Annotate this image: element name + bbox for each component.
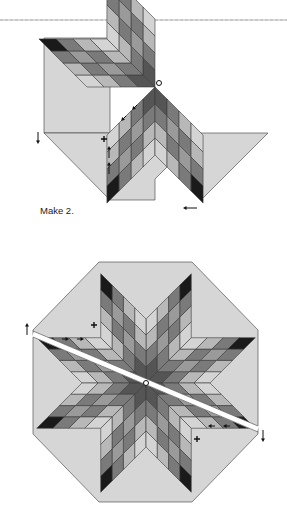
- circle-icon: [144, 381, 149, 386]
- half-lone-star-unit: [39, 0, 268, 203]
- make-quantity-caption: Make 2.: [40, 205, 74, 216]
- arrow-down-icon: [261, 430, 265, 442]
- arrow-up-icon: [25, 323, 29, 335]
- right-setting-triangle: [201, 133, 268, 200]
- lone-star-diagram: [0, 0, 287, 519]
- arrow-left-icon: [183, 206, 197, 210]
- circle-icon: [157, 81, 162, 86]
- arrow-down-icon: [36, 132, 40, 144]
- left-lower-triangle: [44, 133, 110, 200]
